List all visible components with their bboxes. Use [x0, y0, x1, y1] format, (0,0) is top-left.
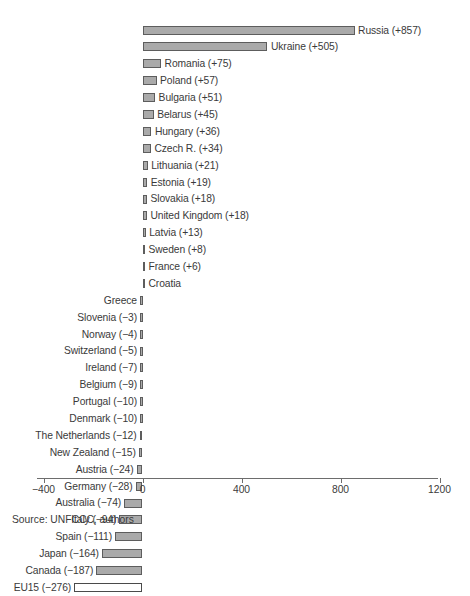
- plot-area: Russia (+857)Ukraine (+505)Romania (+75)…: [0, 22, 470, 474]
- bar-ukraine: [143, 42, 268, 51]
- bar-bulgaria: [143, 93, 156, 102]
- bar-label: Switzerland (−5): [64, 343, 137, 359]
- bar-label: New Zealand (−15): [50, 445, 136, 461]
- bar-label: Lithuania (+21): [151, 158, 218, 174]
- bar-row: Lithuania (+21): [0, 157, 470, 174]
- bar-row: Denmark (−10): [0, 410, 470, 427]
- bar-label: Czech R. (+34): [154, 141, 222, 157]
- bar-united-kingdom: [143, 211, 147, 220]
- bar-slovenia: [140, 313, 143, 322]
- bar-label: Belarus (+45): [157, 107, 218, 123]
- bar-row: Hungary (+36): [0, 123, 470, 140]
- bar-switzerland: [140, 347, 143, 356]
- bar-row: Japan (−164): [0, 546, 470, 563]
- bar-russia: [143, 26, 355, 35]
- bar-eu15: [74, 583, 142, 592]
- bar-france: [143, 262, 146, 271]
- bar-label: Croatia: [149, 276, 182, 292]
- bar-poland: [143, 76, 157, 85]
- bar-label: Spain (−111): [56, 529, 113, 545]
- bar-row: The Netherlands (−12): [0, 427, 470, 444]
- bar-label: France (+6): [149, 259, 201, 275]
- bar-romania: [143, 59, 162, 68]
- bar-label: Sweden (+8): [149, 242, 207, 258]
- bar-row: Slovakia (+18): [0, 191, 470, 208]
- bar-label: Poland (+57): [160, 73, 218, 89]
- bar-label: Greece: [104, 293, 137, 309]
- bar-label: Russia (+857): [358, 23, 421, 39]
- x-axis-tick-label: −400: [32, 483, 55, 497]
- bar-label: Norway (−4): [82, 327, 137, 343]
- bar-label: United Kingdom (+18): [150, 208, 248, 224]
- x-axis-tick-label: 400: [233, 483, 250, 497]
- bar-spain: [115, 532, 142, 541]
- bar-row: Belgium (−9): [0, 377, 470, 394]
- bar-row: Romania (+75): [0, 56, 470, 73]
- bar-label: Estonia (+19): [151, 175, 211, 191]
- bar-row: Estonia (+19): [0, 174, 470, 191]
- bar-label: Ukraine (+505): [271, 39, 338, 55]
- x-axis-line: [37, 478, 438, 479]
- bar-slovakia: [143, 195, 147, 204]
- bar-row: Sweden (+8): [0, 242, 470, 259]
- bar-label: Slovenia (−3): [77, 310, 137, 326]
- bar-new-zealand: [139, 448, 143, 457]
- bar-row: Poland (+57): [0, 73, 470, 90]
- bar-canada: [96, 566, 142, 575]
- bar-czech-r: [143, 144, 151, 153]
- bar-row: Russia (+857): [0, 22, 470, 39]
- bar-row: France (+6): [0, 258, 470, 275]
- bar-belgium: [140, 380, 143, 389]
- bar-sweden: [143, 245, 146, 254]
- bar-norway: [140, 330, 143, 339]
- bar-japan: [102, 549, 143, 558]
- bar-label: Denmark (−10): [69, 411, 137, 427]
- x-axis: −40004008001200: [0, 474, 470, 506]
- bar-latvia: [143, 228, 146, 237]
- bar-label: Belgium (−9): [80, 377, 137, 393]
- bar-row: New Zealand (−15): [0, 444, 470, 461]
- bar-portugal: [140, 397, 143, 406]
- bar-row: United Kingdom (+18): [0, 208, 470, 225]
- bar-label: Canada (−187): [26, 563, 94, 579]
- bar-the-netherlands: [140, 431, 143, 440]
- bar-row: Latvia (+13): [0, 225, 470, 242]
- bar-belarus: [143, 110, 154, 119]
- x-axis-tick-label: 800: [332, 483, 349, 497]
- bar-label: Hungary (+36): [155, 124, 220, 140]
- bar-label: Romania (+75): [165, 56, 232, 72]
- bar-row: Bulgaria (+51): [0, 90, 470, 107]
- bar-label: Ireland (−7): [85, 360, 137, 376]
- bar-row: Canada (−187): [0, 563, 470, 580]
- bar-label: Slovakia (+18): [150, 191, 215, 207]
- bar-row: Norway (−4): [0, 326, 470, 343]
- bar-row: Portugal (−10): [0, 394, 470, 411]
- bar-hungary: [143, 127, 152, 136]
- bar-row: Belarus (+45): [0, 106, 470, 123]
- bar-row: Ireland (−7): [0, 360, 470, 377]
- x-axis-tick-label: 1200: [428, 483, 451, 497]
- bar-label: Latvia (+13): [149, 225, 202, 241]
- bar-denmark: [140, 414, 143, 423]
- bar-label: Portugal (−10): [73, 394, 137, 410]
- bar-estonia: [143, 178, 148, 187]
- bar-label: EU15 (−276): [14, 580, 72, 596]
- bar-row: Greece: [0, 292, 470, 309]
- bar-label: Japan (−164): [39, 546, 99, 562]
- bar-row: Slovenia (−3): [0, 309, 470, 326]
- bar-label: The Netherlands (−12): [35, 428, 136, 444]
- source-note: Source: UNFCCC, authors: [12, 513, 134, 527]
- bar-row: Croatia: [0, 275, 470, 292]
- bar-croatia: [143, 279, 146, 288]
- bar-greece: [140, 296, 143, 305]
- bar-lithuania: [143, 161, 148, 170]
- bar-ireland: [140, 363, 143, 372]
- bar-row: Ukraine (+505): [0, 39, 470, 56]
- bar-row: Spain (−111): [0, 529, 470, 546]
- bar-austria: [137, 465, 143, 474]
- bar-row: Czech R. (+34): [0, 140, 470, 157]
- bar-row: Switzerland (−5): [0, 343, 470, 360]
- x-axis-tick-label: 0: [140, 483, 146, 497]
- bar-label: Bulgaria (+51): [159, 90, 223, 106]
